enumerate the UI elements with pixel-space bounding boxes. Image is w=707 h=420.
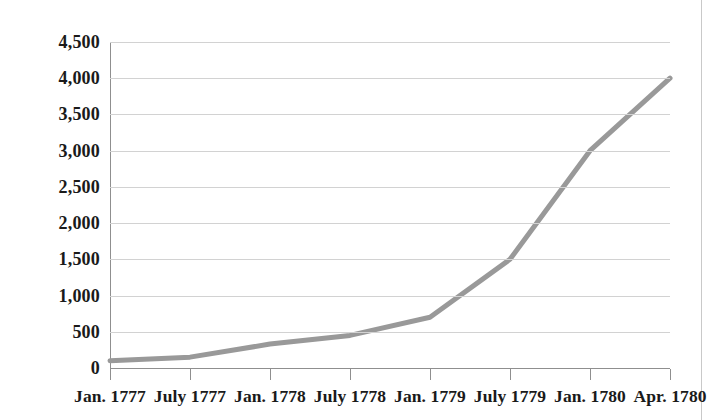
gridline: [110, 296, 670, 297]
x-axis-tick-labels: Jan. 1777July 1777Jan. 1778July 1778Jan.…: [0, 386, 705, 416]
x-axis-tick: [110, 369, 111, 380]
gridline: [110, 42, 670, 43]
plot-area: [110, 42, 670, 368]
gridline: [110, 114, 670, 115]
y-axis-tick-label: 1,500: [0, 249, 100, 270]
x-axis-tick: [510, 369, 511, 380]
y-axis-tick-label: 2,000: [0, 213, 100, 234]
line-series: [110, 42, 670, 368]
x-axis-tick-label: July 1778: [314, 386, 386, 407]
x-axis-tick: [590, 369, 591, 380]
x-axis-tick: [350, 369, 351, 380]
x-axis-ticks: [110, 369, 670, 381]
gridline: [110, 187, 670, 188]
y-axis-tick-label: 500: [0, 321, 100, 342]
gridline: [110, 223, 670, 224]
x-axis-tick-label: Jan. 1777: [74, 386, 146, 407]
y-axis-tick-label: 4,000: [0, 68, 100, 89]
x-axis-tick-label: July 1777: [154, 386, 226, 407]
y-axis-tick-label: 2,500: [0, 176, 100, 197]
x-axis-tick-label: Jan. 1779: [394, 386, 466, 407]
y-axis-tick-label: 4,500: [0, 32, 100, 53]
y-axis-tick-labels: 05001,0001,5002,0002,5003,0003,5004,0004…: [0, 0, 100, 420]
x-axis-tick-label: July 1779: [474, 386, 546, 407]
x-axis-tick: [190, 369, 191, 380]
series-polyline: [110, 78, 670, 361]
figure-right-border: [701, 0, 702, 420]
x-axis-tick-label: Jan. 1780: [554, 386, 626, 407]
x-axis-tick: [270, 369, 271, 380]
x-axis-tick-label: Apr. 1780: [633, 386, 706, 407]
y-axis-tick-label: 3,000: [0, 140, 100, 161]
y-axis-tick-label: 1,000: [0, 285, 100, 306]
gridline: [110, 78, 670, 79]
gridline: [110, 259, 670, 260]
x-axis-tick-label: Jan. 1778: [234, 386, 306, 407]
gridline: [110, 151, 670, 152]
y-axis-tick-label: 0: [0, 358, 100, 379]
x-axis-tick: [670, 369, 671, 380]
gridline: [110, 332, 670, 333]
y-axis-tick-label: 3,500: [0, 104, 100, 125]
x-axis-tick: [430, 369, 431, 380]
